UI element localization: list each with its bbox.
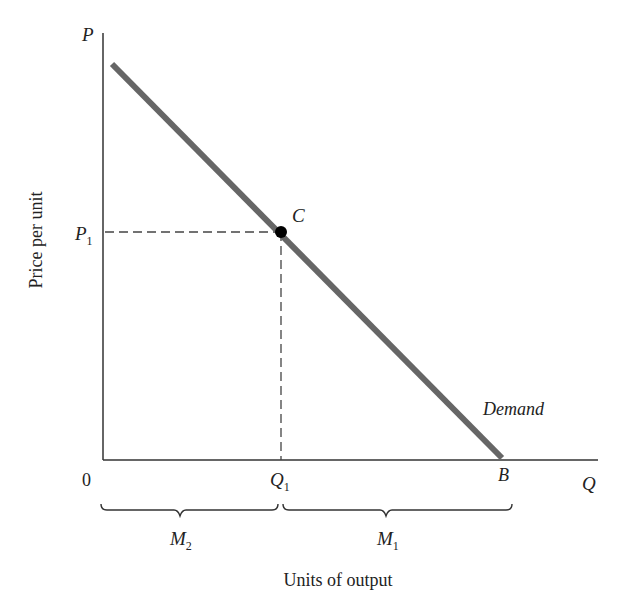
point-b-label: B (498, 465, 509, 485)
x-axis-title: Units of output (283, 570, 392, 590)
demand-diagram: P Q 0 P1 Q1 C B Demand M2 M1 Units of ou… (0, 0, 622, 603)
m1-label: M1 (376, 528, 399, 553)
q1-label: Q1 (270, 469, 290, 494)
origin-label: 0 (82, 470, 91, 490)
y-axis-title: Price per unit (26, 192, 46, 289)
x-axis-symbol: Q (582, 473, 596, 494)
p1-label: P1 (74, 223, 93, 248)
y-axis-symbol: P (81, 24, 94, 45)
brace-m2 (101, 504, 278, 516)
demand-curve (112, 64, 502, 458)
demand-label: Demand (482, 399, 545, 419)
brace-m1 (283, 504, 512, 516)
point-c-label: C (292, 205, 305, 226)
point-c (275, 226, 287, 238)
m2-label: M2 (169, 528, 192, 553)
